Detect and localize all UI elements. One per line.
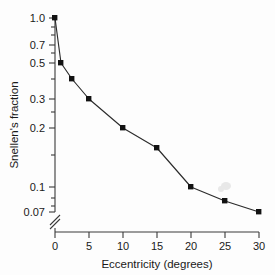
y-axis-tick-labels: 1.0 0.7 0.5 0.3 0.2 0.1 0.07	[24, 12, 45, 218]
axis-lines	[55, 18, 259, 232]
scan-artifact	[218, 182, 231, 192]
x-tick-label: 25	[219, 240, 231, 252]
x-axis-title: Eccentricity (degrees)	[101, 258, 212, 270]
data-point	[154, 145, 159, 150]
data-point	[120, 125, 125, 130]
data-point	[188, 184, 193, 189]
x-tick-label: 20	[185, 240, 197, 252]
data-point	[256, 209, 261, 214]
y-tick-label: 0.7	[30, 39, 45, 51]
x-axis-ticks	[55, 232, 259, 238]
data-point	[69, 76, 74, 81]
x-tick-label: 15	[151, 240, 163, 252]
y-axis-title: Snellen's fraction	[8, 81, 20, 168]
data-point	[86, 96, 91, 101]
x-tick-label: 5	[86, 240, 92, 252]
x-axis-tick-labels: 0 5 10 15 20 25 30	[52, 240, 265, 252]
y-tick-label: 1.0	[30, 12, 45, 24]
x-tick-label: 10	[117, 240, 129, 252]
y-axis-break-icon	[50, 215, 60, 229]
y-tick-label: 0.1	[30, 181, 45, 193]
y-tick-label: 0.3	[30, 93, 45, 105]
y-tick-label: 0.5	[30, 57, 45, 69]
data-point	[222, 198, 227, 203]
y-axis-minor-ticks	[51, 27, 55, 206]
x-tick-label: 30	[253, 240, 265, 252]
y-tick-label: 0.07	[24, 206, 45, 218]
x-tick-label: 0	[52, 240, 58, 252]
data-point	[52, 15, 57, 20]
snellen-fraction-line-chart: 1.0 0.7 0.5 0.3 0.2 0.1 0.07 0 5 10 15 2…	[0, 0, 275, 275]
chart-figure: 1.0 0.7 0.5 0.3 0.2 0.1 0.07 0 5 10 15 2…	[0, 0, 275, 275]
data-point	[58, 60, 63, 65]
y-tick-label: 0.2	[30, 122, 45, 134]
y-axis-major-ticks	[49, 18, 55, 212]
